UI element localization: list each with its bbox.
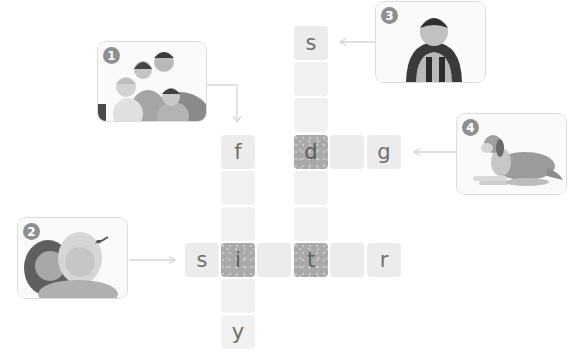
cell-input[interactable] <box>367 135 401 169</box>
grid-cell[interactable] <box>221 171 255 205</box>
cell-input[interactable] <box>185 243 219 277</box>
arrow-clue-1 <box>205 83 245 128</box>
clue-card-1: 1 <box>97 41 207 122</box>
grid-cell[interactable] <box>367 135 401 169</box>
grid-cell[interactable] <box>221 135 255 169</box>
arrow-clue-3 <box>338 37 376 47</box>
cell-input[interactable] <box>294 243 328 277</box>
grid-cell-shared[interactable] <box>294 243 328 277</box>
grid-cell[interactable] <box>367 243 401 277</box>
cell-input[interactable] <box>221 243 255 277</box>
clue-number-badge: 3 <box>381 7 398 24</box>
cell-input[interactable] <box>294 135 328 169</box>
grid-cell[interactable] <box>330 135 364 169</box>
grid-cell-shared[interactable] <box>221 243 255 277</box>
grid-cell[interactable] <box>221 315 255 349</box>
cell-input[interactable] <box>294 26 328 60</box>
grid-cell[interactable] <box>185 243 219 277</box>
cell-input[interactable] <box>221 171 255 205</box>
grid-cell[interactable] <box>221 279 255 313</box>
arrow-clue-2 <box>128 255 178 265</box>
clue-number-badge: 2 <box>23 223 40 240</box>
cell-input[interactable] <box>257 243 291 277</box>
grid-cell[interactable] <box>294 26 328 60</box>
cell-input[interactable] <box>221 315 255 349</box>
cell-input[interactable] <box>221 207 255 241</box>
cell-input[interactable] <box>330 243 364 277</box>
clue-card-2: 2 <box>17 217 128 299</box>
grid-cell[interactable] <box>294 62 328 96</box>
grid-cell-shared[interactable] <box>294 135 328 169</box>
cell-input[interactable] <box>221 279 255 313</box>
clue-number-badge: 1 <box>103 47 120 64</box>
cell-input[interactable] <box>294 207 328 241</box>
cell-input[interactable] <box>330 135 364 169</box>
grid-cell[interactable] <box>330 243 364 277</box>
arrow-clue-4 <box>412 147 458 157</box>
grid-cell[interactable] <box>294 207 328 241</box>
grid-cell[interactable] <box>257 243 291 277</box>
clue-card-4: 4 <box>456 113 567 195</box>
cell-input[interactable] <box>294 171 328 205</box>
grid-cell[interactable] <box>294 98 328 132</box>
grid-cell[interactable] <box>221 207 255 241</box>
cell-input[interactable] <box>367 243 401 277</box>
grid-cell[interactable] <box>294 171 328 205</box>
cell-input[interactable] <box>294 98 328 132</box>
cell-input[interactable] <box>221 135 255 169</box>
clue-card-3: 3 <box>375 1 486 83</box>
clue-number-badge: 4 <box>462 119 479 136</box>
cell-input[interactable] <box>294 62 328 96</box>
